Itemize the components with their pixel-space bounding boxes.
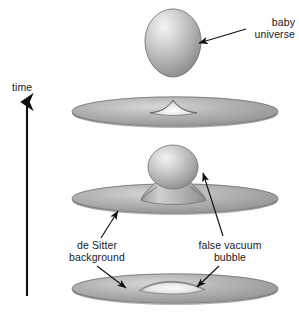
stage-neck-and-bulb (72, 145, 278, 215)
label-false-vacuum-bubble: false vacuum bubble (183, 239, 277, 263)
baby-universe-leader (199, 29, 246, 43)
stage-baby-universe (145, 9, 201, 77)
de-sitter-upper-leader (101, 211, 118, 238)
diagram-figure: baby universe time de Sitter background … (0, 0, 299, 316)
baby-universe-body (145, 9, 201, 77)
inflating-bubble-bulb (148, 145, 198, 189)
label-de-sitter-background: de Sitter background (57, 239, 137, 263)
diagram-canvas (0, 0, 299, 316)
label-time-axis: time (12, 81, 32, 93)
stage-pinch-off-disc (72, 97, 278, 129)
stage-bubble-disc (72, 274, 278, 306)
label-baby-universe: baby universe (255, 16, 296, 40)
